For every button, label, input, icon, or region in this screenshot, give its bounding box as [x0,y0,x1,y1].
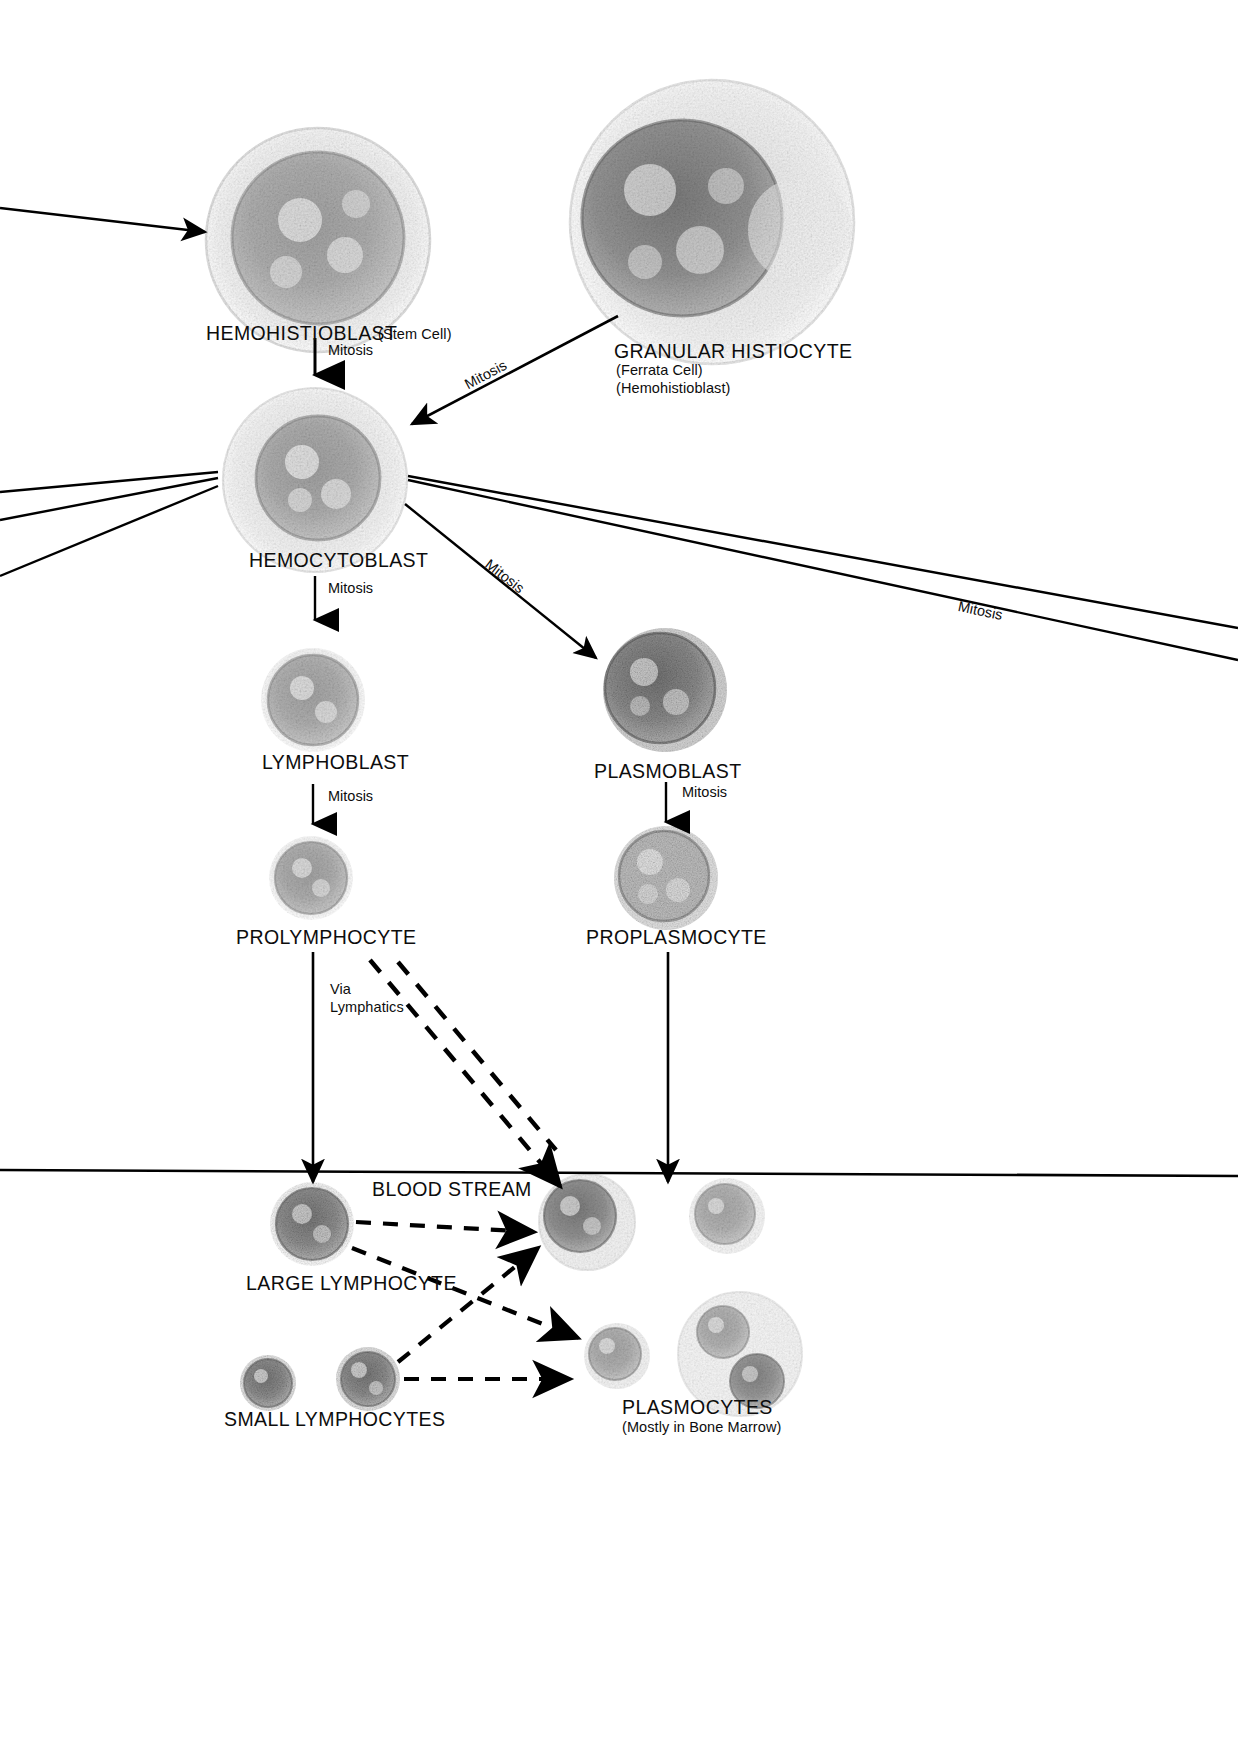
arrow-large-lymphocyte-to-blood-plasmocyte [356,1222,534,1232]
arrow-hemocytoblast-right-2 [408,480,1238,660]
annotation-via-lymphatics-line-1: Via [330,981,351,998]
cell-image-blood-plasmocyte-2 [689,1178,765,1254]
cell-image-blood-plasmocyte-1 [539,1174,635,1270]
cell-images-layer [0,0,1238,1744]
arrow-hemocytoblast-left-3 [0,486,218,576]
cell-image-hemocytoblast [223,388,407,572]
node-label-hemocytoblast: HEMOCYTOBLAST [249,549,428,572]
cell-image-small-lymphocyte-1 [240,1355,296,1411]
arrow-into-hemohistioblast [0,208,205,232]
cell-image-large-lymphocyte [270,1182,354,1266]
cell-image-granular-histiocyte [570,80,854,364]
node-label-plasmocytes: PLASMOCYTES [622,1396,773,1419]
cell-image-hemohistioblast [206,128,430,352]
node-sublabel-hemohistioblast: (Stem Cell) [378,326,452,343]
arrow-prolymphatics-dashed-2 [398,962,556,1150]
node-label-granular-histiocyte: GRANULAR HISTIOCYTE [614,340,852,363]
node-label-plasmoblast: PLASMOBLAST [594,760,741,783]
node-sublabel-granular-histiocyte-2: (Hemohistioblast) [616,380,731,397]
annotation-mitosis-1: Mitosis [328,342,373,359]
node-label-large-lymphocyte: LARGE LYMPHOCYTE [246,1272,457,1295]
arrow-hemocytoblast-right-1 [408,476,1238,628]
blood-stream-label: BLOOD STREAM [372,1178,532,1201]
cell-image-prolymphocyte [269,836,353,920]
annotation-mitosis-2: Mitosis [462,357,510,393]
annotation-via-lymphatics-line-2: Lymphatics [330,999,404,1016]
cell-image-plasmoblast [603,628,727,752]
node-label-proplasmocyte: PROPLASMOCYTE [586,926,767,949]
node-sublabel-granular-histiocyte-1: (Ferrata Cell) [616,362,703,379]
cell-image-proplasmocyte [614,826,718,930]
node-label-lymphoblast: LYMPHOBLAST [262,751,409,774]
cell-image-small-lymphocyte-2 [336,1347,400,1411]
connectors-layer [0,0,1238,1744]
arrow-hemocytoblast-left-2 [0,478,218,520]
node-label-prolymphocyte: PROLYMPHOCYTE [236,926,416,949]
node-sublabel-plasmocytes: (Mostly in Bone Marrow) [622,1419,781,1436]
cell-image-plasmocyte-1 [584,1323,650,1389]
arrow-hemocytoblast-left-1 [0,472,218,492]
arrow-prolymphatics-dashed-1 [370,960,560,1186]
annotation-mitosis-3: Mitosis [328,580,373,597]
blood-stream-divider [0,1170,1238,1176]
diagram-canvas: HEMOHISTIOBLAST (Stem Cell) Mitosis GRAN… [0,0,1238,1744]
arrow-small-lymphocyte-to-blood-plasmocyte [398,1248,538,1362]
cell-image-lymphoblast [261,648,365,752]
annotation-mitosis-4: Mitosis [481,556,527,597]
annotation-mitosis-6: Mitosis [328,788,373,805]
annotation-mitosis-5: Mitosis [956,598,1004,624]
node-label-small-lymphocytes: SMALL LYMPHOCYTES [224,1408,445,1431]
annotation-mitosis-7: Mitosis [682,784,727,801]
